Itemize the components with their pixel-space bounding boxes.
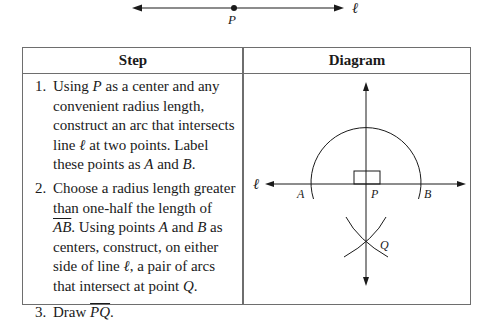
arrowhead-left-icon — [265, 181, 274, 187]
arrowhead-right-icon — [457, 181, 466, 187]
label-b: B — [424, 187, 432, 201]
right-angle-marker — [354, 171, 380, 184]
arrowhead-up-icon — [363, 82, 369, 91]
label-p: P — [370, 187, 379, 201]
arrowhead-down-icon — [363, 277, 369, 286]
label-l: ℓ — [253, 176, 259, 192]
label-q: Q — [380, 238, 389, 252]
label-a: A — [296, 187, 305, 201]
